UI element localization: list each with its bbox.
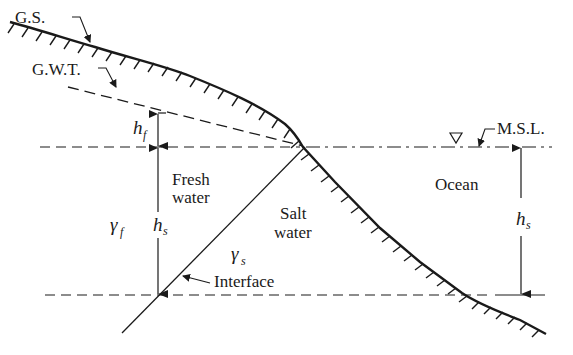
svg-text:s: s xyxy=(526,218,531,232)
svg-text:h: h xyxy=(133,117,143,138)
gs-label: G.S. xyxy=(15,8,45,27)
gwt-label: G.W.T. xyxy=(32,60,81,79)
hs-right-symbol: h s xyxy=(516,208,531,232)
hf-symbol: h f xyxy=(133,117,148,142)
fresh-salt-interface-diagram: G.S. G.W.T. M.S.L. Fresh water Salt wate… xyxy=(0,0,573,355)
svg-text:s: s xyxy=(241,254,246,268)
gamma-f-symbol: γ f xyxy=(110,214,125,239)
svg-text:h: h xyxy=(516,208,526,229)
interface-leader xyxy=(183,276,210,283)
svg-text:γ: γ xyxy=(110,214,118,235)
fresh-water-label-1: Fresh xyxy=(172,170,210,189)
svg-text:f: f xyxy=(143,128,148,142)
gwt-leader xyxy=(98,68,116,87)
svg-text:h: h xyxy=(153,214,163,235)
interface-label: Interface xyxy=(214,272,274,291)
water-level-marker-icon xyxy=(450,133,462,143)
salt-water-label-2: water xyxy=(274,223,312,242)
fresh-water-label-2: water xyxy=(172,188,210,207)
ocean-label: Ocean xyxy=(435,175,479,194)
gs-leader xyxy=(72,17,90,42)
hs-left-symbol: h s xyxy=(153,214,168,238)
salt-water-label-1: Salt xyxy=(280,204,307,223)
svg-text:γ: γ xyxy=(231,243,239,264)
svg-text:f: f xyxy=(120,225,125,239)
groundwater-table-line xyxy=(68,87,303,146)
msl-label: M.S.L. xyxy=(497,119,545,138)
svg-text:s: s xyxy=(163,224,168,238)
hf-dimension xyxy=(158,113,166,146)
msl-leader xyxy=(479,129,495,146)
gamma-s-symbol: γ s xyxy=(231,243,246,268)
